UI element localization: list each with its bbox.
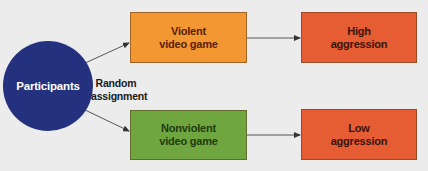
random-assignment-label: Random assignment xyxy=(91,77,141,103)
low-aggression-node: Low aggression xyxy=(301,109,417,160)
participants-label: Participants xyxy=(16,80,79,92)
violent-video-game-node: Violent video game xyxy=(130,12,247,63)
arrow-participants-to-nonviolent xyxy=(83,109,129,131)
participants-node: Participants xyxy=(3,41,93,131)
high-aggression-node: High aggression xyxy=(301,12,417,63)
arrow-participants-to-violent xyxy=(83,43,129,64)
nonviolent-video-game-node: Nonviolent video game xyxy=(130,110,247,160)
diagram-canvas: Participants Random assignment Violent v… xyxy=(0,0,428,171)
